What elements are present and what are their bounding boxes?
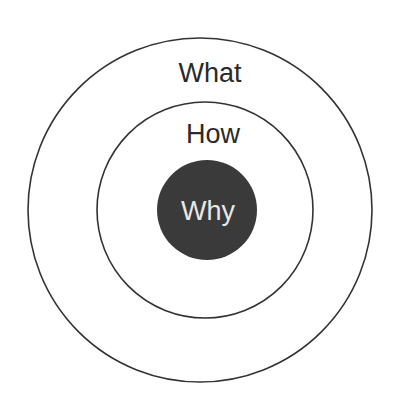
label-how: How	[186, 119, 241, 149]
label-why: Why	[181, 196, 236, 226]
label-what: What	[178, 58, 242, 88]
golden-circle-diagram: What How Why	[0, 0, 397, 417]
